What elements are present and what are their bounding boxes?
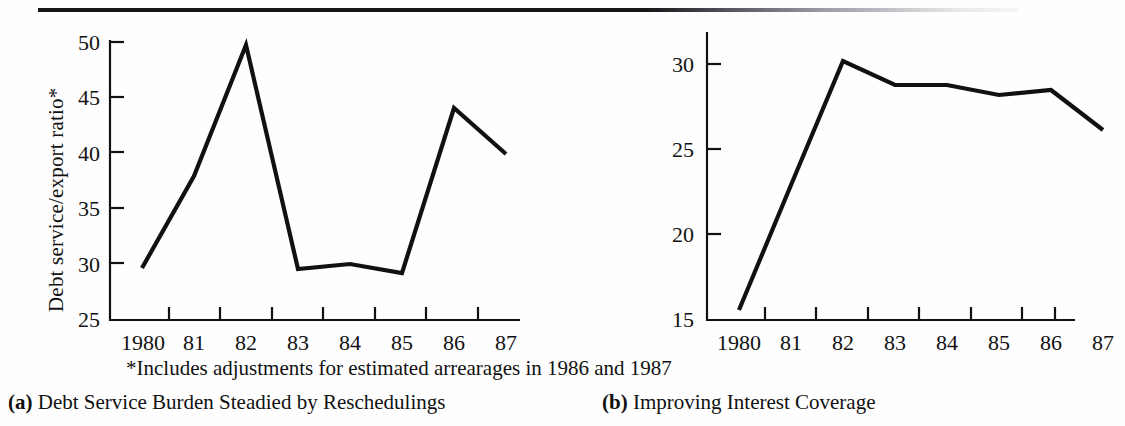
figure-footnote: *Includes adjustments for estimated arre… [126,356,672,381]
x-tick-label-b-85: 85 [977,330,1021,356]
x-tick-label-a-84: 84 [328,330,372,356]
figure-page: Debt service/export ratio* 50 45 40 35 3… [0,0,1125,426]
x-tick-label-a-87: 87 [484,330,528,356]
axis-lines-a [110,40,520,320]
x-tick-label-b-81: 81 [769,330,813,356]
caption-b-text: Improving Interest Coverage [633,390,876,414]
y-ticks-b [707,64,721,234]
x-tick-label-a-82: 82 [224,330,268,356]
data-line-b [739,61,1103,310]
y-ticks-a [110,42,124,263]
x-tick-label-b-1980: 1980 [701,330,777,356]
y-tick-label-b-30: 30 [650,52,694,78]
x-tick-label-a-1980: 1980 [105,330,181,356]
data-line-a [142,45,506,273]
x-tick-label-b-87: 87 [1081,330,1125,356]
caption-a-text: Debt Service Burden Steadied by Reschedu… [38,390,446,414]
caption-a-tag: (a) [8,390,33,414]
x-tick-label-b-83: 83 [873,330,917,356]
y-tick-label-b-15: 15 [650,307,694,333]
x-ticks-b [765,307,1055,320]
caption-b: (b) Improving Interest Coverage [602,390,876,415]
y-tick-label-b-25: 25 [650,137,694,163]
y-tick-label-b-20: 20 [650,222,694,248]
x-tick-label-a-81: 81 [172,330,216,356]
x-tick-label-a-86: 86 [432,330,476,356]
x-tick-label-a-83: 83 [276,330,320,356]
caption-b-tag: (b) [602,390,628,414]
x-tick-label-a-85: 85 [380,330,424,356]
x-ticks-a [169,307,478,320]
axis-lines-b [707,32,1075,320]
x-tick-label-b-84: 84 [925,330,969,356]
x-tick-label-b-86: 86 [1029,330,1073,356]
caption-a: (a) Debt Service Burden Steadied by Resc… [8,390,445,415]
x-tick-label-b-82: 82 [821,330,865,356]
